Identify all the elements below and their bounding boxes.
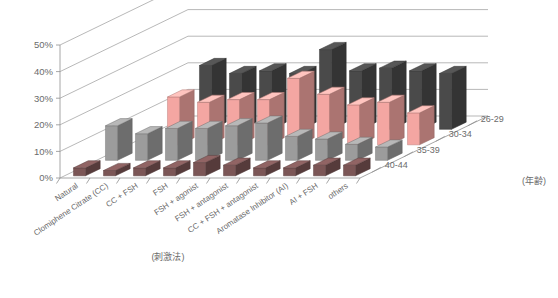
bar-40-44-8	[313, 158, 340, 176]
category-axis-labels: NaturalClomiphene Citrate (CC)CC + FSHFS…	[32, 178, 360, 238]
bar-front-face	[223, 165, 235, 176]
value-tick-label: 30%	[34, 93, 54, 104]
x-axis-title: (刺激法)	[152, 251, 185, 262]
bar-front-face	[165, 128, 177, 160]
legend-label-30-34: 30-34	[449, 129, 472, 139]
category-tick-3	[147, 178, 151, 184]
bar-front-face	[315, 139, 327, 160]
bar-35-39-5	[255, 116, 282, 160]
bar-side-face	[267, 116, 282, 160]
value-tick-label: 20%	[34, 119, 54, 130]
bar-30-34-8	[377, 95, 404, 145]
category-tick-9	[327, 178, 331, 184]
category-label: FSH	[151, 181, 169, 198]
bar-front-face	[253, 168, 265, 176]
category-tick-0	[57, 178, 61, 184]
bar-40-44-7	[283, 161, 310, 176]
chart-3d-bar: 0%10%20%30%40%50%NaturalClomiphene Citra…	[0, 0, 558, 298]
value-tick-label: 50%	[34, 39, 54, 50]
bar-40-44-3	[163, 161, 190, 176]
category-label: CC + FSH	[104, 181, 140, 209]
gridline-depth-40	[60, 10, 188, 72]
bar-side-face	[389, 95, 404, 145]
bar-front-face	[225, 126, 237, 161]
bar-35-39-1	[135, 127, 162, 161]
category-tick-8	[297, 178, 301, 184]
bar-front-face	[255, 123, 267, 160]
value-tick-label: 10%	[34, 146, 54, 157]
category-label: others	[326, 181, 349, 201]
bar-40-44-1	[103, 163, 130, 175]
legend-tick-30-34	[436, 136, 445, 141]
category-label: AI + FSH	[288, 181, 320, 207]
bars-layer	[73, 42, 466, 175]
bar-front-face	[375, 147, 387, 160]
bar-35-39-4	[225, 119, 252, 161]
category-tick-6	[237, 178, 241, 184]
bar-front-face	[407, 113, 419, 145]
legend-tick-26-29	[468, 121, 477, 126]
bar-front-face	[73, 168, 85, 176]
category-tick-10	[357, 178, 361, 184]
gridline-depth-30	[60, 36, 188, 98]
bar-front-face	[193, 163, 205, 176]
chart-canvas: 0%10%20%30%40%50%NaturalClomiphene Citra…	[0, 0, 558, 298]
category-tick-5	[207, 178, 211, 184]
bar-front-face	[283, 168, 295, 176]
bar-front-face	[103, 171, 115, 176]
legend-label-35-39: 35-39	[417, 145, 440, 155]
bar-40-44-2	[133, 161, 160, 176]
bar-26-29-9	[439, 66, 466, 129]
bar-40-44-0	[73, 161, 100, 176]
legend-tick-35-39	[404, 152, 413, 157]
bar-front-face	[343, 165, 355, 176]
bar-40-44-6	[253, 161, 280, 176]
category-tick-2	[117, 178, 121, 184]
category-tick-4	[177, 178, 181, 184]
bar-front-face	[439, 73, 451, 129]
bar-front-face	[133, 168, 145, 176]
bar-35-39-0	[105, 119, 132, 161]
bar-front-face	[313, 165, 325, 176]
bar-side-face	[451, 66, 466, 129]
bar-front-face	[135, 134, 147, 161]
category-tick-7	[267, 178, 271, 184]
bar-front-face	[377, 102, 389, 145]
bar-35-39-3	[195, 121, 222, 160]
bar-40-44-5	[223, 158, 250, 176]
value-axis-labels: 0%10%20%30%40%50%	[34, 39, 60, 183]
bar-front-face	[163, 168, 175, 176]
value-tick-label: 40%	[34, 66, 54, 77]
legend-label-40-44: 40-44	[385, 160, 408, 170]
category-tick-1	[87, 178, 91, 184]
bar-30-34-9	[407, 106, 434, 145]
bar-35-39-2	[165, 121, 192, 160]
legend-title: (年齢)	[522, 175, 546, 186]
bar-front-face	[285, 136, 297, 160]
bar-front-face	[195, 128, 207, 160]
legend-tick-40-44	[372, 167, 381, 172]
legend-label-26-29: 26-29	[481, 114, 504, 124]
value-tick-label: 0%	[39, 172, 53, 183]
bar-front-face	[105, 126, 117, 161]
bar-40-44-9	[343, 158, 370, 176]
gridline-depth-50	[60, 0, 188, 45]
bar-front-face	[345, 144, 357, 160]
